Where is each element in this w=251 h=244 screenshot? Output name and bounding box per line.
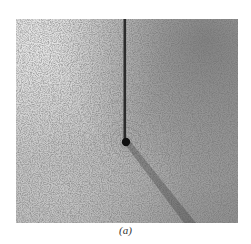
wire xyxy=(124,19,127,141)
iron-filings-texture xyxy=(16,19,238,223)
wire-end-dot xyxy=(122,138,130,146)
caption-text: (a) xyxy=(119,224,132,236)
iron-filings-photo xyxy=(16,19,238,223)
figure-caption: (a) xyxy=(0,224,251,236)
figure: (a) xyxy=(0,0,251,244)
